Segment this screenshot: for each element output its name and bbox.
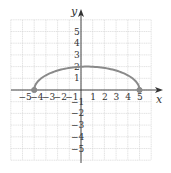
x-tick-label: 2 [102,92,108,102]
axes: x y [11,5,163,163]
y-tick-label: −1 [71,97,84,107]
y-tick-label: 3 [74,50,80,60]
x-tick-label: 5 [137,92,143,102]
endpoint-dot [137,87,142,92]
y-tick-label: −4 [71,132,85,142]
y-tick-label: 4 [74,38,80,48]
y-tick-label: 1 [74,73,80,83]
y-axis-label: y [70,5,78,18]
y-tick-label: −5 [71,144,85,154]
x-tick-label: 3 [114,92,120,102]
y-tick-label: −2 [71,108,84,118]
y-tick-label: 5 [74,27,80,37]
x-tick-label: 1 [90,92,96,102]
x-axis-label: x [156,93,163,106]
data-series [32,67,142,93]
coordinate-plane: x y −5−4−3−2−112345−5−4−3−2−112345 [0,0,171,173]
y-tick-label: −3 [71,120,85,130]
x-tick-label: 4 [125,92,131,102]
endpoint-dot [32,87,37,92]
